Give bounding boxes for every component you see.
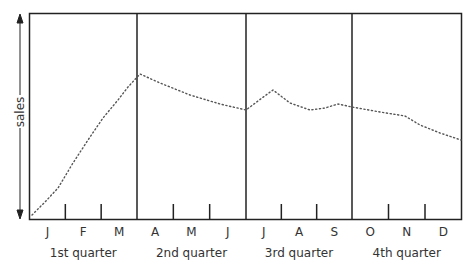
quarter-label: 1st quarter: [50, 246, 117, 260]
month-label: A: [295, 225, 304, 239]
quarter-label: 2nd quarter: [156, 246, 227, 260]
month-label: M: [114, 225, 124, 239]
month-label: S: [331, 225, 339, 239]
month-label: O: [366, 225, 375, 239]
y-axis-label: sales: [13, 97, 27, 128]
quarter-label: 3rd quarter: [265, 246, 333, 260]
month-label: J: [45, 225, 50, 239]
month-label: F: [80, 225, 87, 239]
month-label: D: [439, 225, 448, 239]
month-label: A: [151, 225, 160, 239]
month-label: N: [402, 225, 411, 239]
sales-chart: sales JFMAMJJASOND 1st quarter2nd quarte…: [0, 0, 470, 265]
month-label: J: [225, 225, 230, 239]
quarter-label: 4th quarter: [373, 246, 441, 260]
quarter-labels: 1st quarter2nd quarter3rd quarter4th qua…: [50, 246, 441, 260]
quarter-dividers: [137, 13, 352, 219]
month-label: M: [186, 225, 196, 239]
month-ticks: [65, 204, 425, 219]
month-label: J: [261, 225, 266, 239]
month-labels: JFMAMJJASOND: [45, 225, 448, 239]
